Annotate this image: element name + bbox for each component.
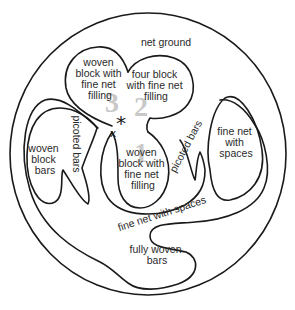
label-fine-net-right: fine net with spaces <box>217 125 254 159</box>
label-woven-block-bars: woven block bars <box>27 142 61 176</box>
label-fully-woven-bars: fully woven bars <box>130 243 185 266</box>
cross-marker: x <box>110 127 117 140</box>
label-picoted-bars-left: picoted bars <box>71 115 83 172</box>
label-picoted-bars-right: picoted bars <box>167 118 204 174</box>
label-fine-net-lower: fine net with spaces <box>116 193 207 233</box>
lace-diagram: 3 2 1 * x net ground woven block with fi… <box>0 0 295 310</box>
label-woven-block-center: woven block with fine net filling <box>118 146 167 191</box>
label-net-ground: net ground <box>141 36 191 48</box>
asterisk-marker: * <box>116 111 126 135</box>
